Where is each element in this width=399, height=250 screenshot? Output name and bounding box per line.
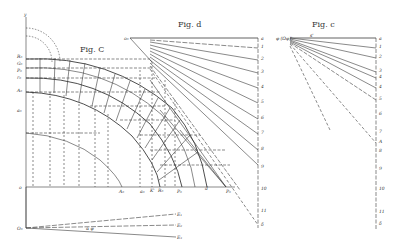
fig-c-apex-label: φ (Ωφ)' — [276, 36, 292, 41]
bottom-detail-drawing — [26, 187, 176, 237]
left-label-r0: R₀ — [16, 54, 22, 59]
svg-text:7: 7 — [379, 129, 382, 134]
line-e2 — [26, 225, 176, 228]
bottom-label-p0: P₀ — [176, 189, 182, 194]
y-axis-label: y — [23, 12, 27, 17]
apex-line — [130, 38, 152, 62]
end-label-e1: E₁ — [176, 212, 182, 217]
fig-c-drawing — [26, 17, 235, 228]
fig-d-scale-labels: a 1 2 3 4 5 6 7 8 9 10 11 δ — [260, 36, 267, 227]
fig-c-right-title: Fig. c — [312, 20, 335, 29]
svg-text:10: 10 — [261, 186, 267, 191]
fig-c-scale-labels: a 1 2 3 4 4 5 6 7 A 8 9 10 11 δ — [378, 36, 385, 226]
svg-text:11: 11 — [379, 209, 385, 214]
left-label-a0-small: a₀ — [17, 108, 22, 113]
bottom-label-p0-right: P₀ — [225, 189, 231, 194]
svg-text:5: 5 — [379, 96, 382, 101]
fig-c-top-mark: s' — [310, 33, 314, 38]
svg-text:1: 1 — [379, 44, 382, 49]
svg-text:4: 4 — [378, 74, 382, 79]
svg-text:a: a — [379, 36, 382, 41]
line-e1 — [26, 214, 176, 228]
bottom-label-d: d — [205, 186, 208, 191]
svg-text:6: 6 — [379, 111, 382, 116]
svg-text:3: 3 — [261, 69, 264, 74]
bottom-origin-label: O₀ — [17, 226, 23, 231]
svg-text:11: 11 — [261, 208, 267, 213]
dotted-arc — [26, 36, 52, 62]
svg-text:δ: δ — [261, 222, 264, 227]
diagonal-line — [150, 80, 226, 187]
fig-d-title: Fig. d — [178, 20, 201, 29]
svg-text:4: 4 — [260, 84, 264, 89]
fan-lines — [150, 40, 258, 225]
bottom-label-a0-small: a₀ — [140, 189, 145, 194]
bottom-angle-label: α φ — [86, 226, 94, 231]
arc-2 — [26, 68, 195, 187]
technical-drawing: Fig. C Fig. d Fig. c y o R₀ G₀ P₀ r₀ A₀ … — [0, 0, 399, 250]
fig-c-title: Fig. C — [80, 45, 104, 54]
arc-innermost — [26, 133, 122, 187]
svg-text:7: 7 — [261, 130, 264, 135]
bottom-label-r0: R₀ — [157, 188, 163, 193]
svg-text:a: a — [261, 36, 264, 41]
svg-text:10: 10 — [379, 186, 385, 191]
origin-label: o — [19, 185, 22, 190]
svg-text:8: 8 — [379, 148, 382, 153]
dotted-arc — [26, 28, 60, 62]
end-label-e3: E₃ — [176, 235, 182, 240]
line-e3 — [26, 228, 176, 237]
svg-text:2: 2 — [378, 54, 382, 59]
svg-text:9: 9 — [261, 164, 264, 169]
left-label-r0-small: r₀ — [17, 75, 21, 80]
svg-text:5: 5 — [261, 99, 264, 104]
svg-text:6: 6 — [261, 115, 264, 120]
svg-text:A: A — [378, 139, 383, 144]
svg-text:δ: δ — [379, 221, 382, 226]
bottom-label-a0: A₀ — [118, 189, 124, 194]
svg-text:8: 8 — [261, 146, 264, 151]
bottom-label-k: K' — [149, 188, 155, 193]
svg-text:3: 3 — [379, 68, 382, 73]
left-label-a0: A₀ — [16, 88, 22, 93]
fig-c-right-drawing — [290, 38, 376, 230]
fig-d-apex-label: o₀ — [124, 36, 129, 41]
left-label-p0: P₀ — [16, 68, 22, 73]
fig-d-drawing — [130, 38, 258, 228]
svg-text:4: 4 — [378, 84, 382, 89]
svg-text:2: 2 — [260, 56, 264, 61]
left-label-g0: G₀ — [17, 61, 23, 66]
end-label-e2: E₂ — [176, 223, 182, 228]
fan-lines — [290, 38, 376, 143]
svg-text:1: 1 — [261, 44, 264, 49]
svg-text:9: 9 — [379, 166, 382, 171]
